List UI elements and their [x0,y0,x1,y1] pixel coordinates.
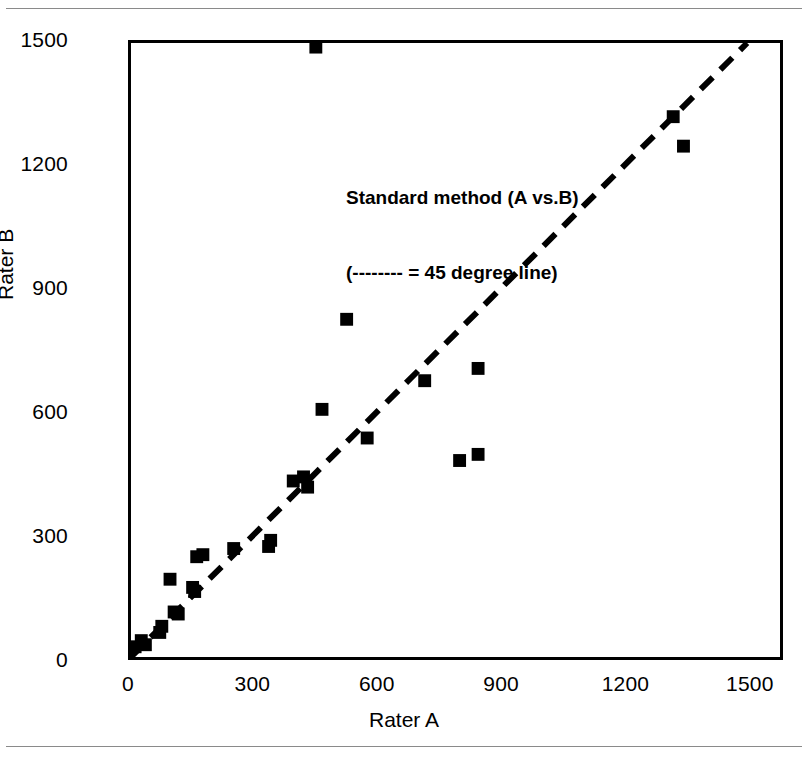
y-tick-label: 600 [0,401,68,422]
y-tick-label: 1500 [0,29,68,50]
data-point-markers [129,41,690,654]
data-point-marker [172,608,185,621]
data-point-marker [301,481,314,494]
data-point-marker [227,542,240,555]
data-point-marker [155,620,168,633]
data-point-marker [677,140,690,153]
data-point-marker [316,403,329,416]
plot-annotation: Standard method (A vs.B) (-------- = 45 … [346,135,579,335]
y-tick-label: 1200 [0,153,68,174]
y-tick-label: 300 [0,525,68,546]
scatter-plot-figure: 030060090012001500 030060090012001500 St… [0,0,808,759]
y-axis-title: Rater B [0,229,18,300]
data-point-marker [472,362,485,375]
data-point-marker [139,638,152,651]
data-point-marker [418,374,431,387]
data-point-marker [196,548,209,561]
x-tick-label: 1500 [695,673,805,694]
data-point-marker [361,432,374,445]
annotation-line-1: Standard method (A vs.B) [346,185,579,210]
data-point-marker [453,454,466,467]
x-axis-title: Rater A [0,708,808,732]
data-point-marker [264,534,277,547]
data-point-marker [164,573,177,586]
data-point-marker [188,585,201,598]
x-tick-label: 1200 [570,673,680,694]
y-tick-label: 0 [0,649,68,670]
x-tick-label: 600 [322,673,432,694]
annotation-line-2: (-------- = 45 degree line) [346,260,579,285]
data-point-marker [472,448,485,461]
data-point-marker [309,41,322,54]
x-tick-label: 900 [446,673,556,694]
x-tick-label: 0 [73,673,183,694]
data-point-marker [667,110,680,123]
plot-frame: Standard method (A vs.B) (-------- = 45 … [128,40,783,660]
x-tick-label: 300 [197,673,307,694]
